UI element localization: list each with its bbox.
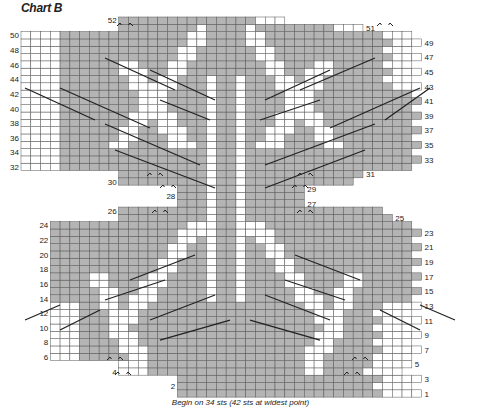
chart-cell: [402, 32, 412, 39]
chart-cell: [41, 127, 51, 134]
chart-cell: [236, 258, 246, 265]
chart-cell: [334, 178, 344, 185]
row-number: 37: [425, 126, 434, 135]
chart-cell: [392, 339, 402, 346]
chart-cell: [246, 75, 256, 82]
chart-cell: [168, 287, 178, 294]
chart-cell: [246, 339, 256, 346]
chart-cell: [363, 222, 373, 229]
chart-cell: [402, 295, 412, 302]
chart-cell: [226, 192, 236, 199]
chart-cell: [21, 32, 31, 39]
chart-cell: [109, 163, 119, 170]
chart-cell: [275, 200, 285, 207]
chart-cell: [197, 149, 207, 156]
chart-cell: [236, 339, 246, 346]
chart-cell: [255, 251, 265, 258]
chart-cell: [295, 353, 305, 360]
chart-cell: [177, 178, 187, 185]
row-number: 42: [10, 90, 19, 99]
chart-cell: [236, 200, 246, 207]
chart-cell: [99, 229, 109, 236]
chart-cell: [187, 134, 197, 141]
chart-cell: [343, 244, 353, 251]
chart-cell: [207, 68, 217, 75]
chart-cell: [187, 273, 197, 280]
chart-cell: [295, 258, 305, 265]
chart-cell: [89, 353, 99, 360]
chart-cell: [343, 383, 353, 390]
chart-cell: [343, 214, 353, 221]
chart-cell: [304, 222, 314, 229]
chart-cell: [353, 207, 363, 214]
chart-cell: [295, 68, 305, 75]
chart-cell: [109, 149, 119, 156]
chart-cell: [343, 375, 353, 382]
chart-cell: [353, 83, 363, 90]
chart-cell: [373, 346, 383, 353]
chart-cell: [324, 24, 334, 31]
chart-cell: [343, 346, 353, 353]
chart-cell: [99, 339, 109, 346]
chart-cell: [343, 339, 353, 346]
chart-cell: [187, 163, 197, 170]
chart-cell: [177, 229, 187, 236]
chart-cell: [99, 90, 109, 97]
chart-cell: [392, 119, 402, 126]
chart-cell: [295, 368, 305, 375]
chart-cell: [265, 192, 275, 199]
chart-cell: [392, 287, 402, 294]
chart-cell: [197, 244, 207, 251]
chart-cell: [382, 68, 392, 75]
row-number: 46: [10, 61, 19, 70]
chart-cell: [119, 236, 129, 243]
knitting-chart-grid: 5048464442403836343230282624222018161412…: [0, 0, 481, 412]
chart-cell: [324, 324, 334, 331]
chart-cell: [80, 46, 90, 53]
chart-cell: [314, 273, 324, 280]
chart-cell: [295, 200, 305, 207]
chart-caption: Begin on 34 sts (42 sts at widest point): [0, 398, 481, 407]
stitch-symbol: [377, 23, 382, 26]
chart-cell: [392, 54, 402, 61]
chart-cell: [177, 287, 187, 294]
chart-cell: [392, 309, 402, 316]
chart-cell: [128, 24, 138, 31]
chart-cell: [314, 361, 324, 368]
chart-cell: [216, 163, 226, 170]
chart-cell: [343, 258, 353, 265]
chart-cell: [255, 39, 265, 46]
chart-cell: [246, 309, 256, 316]
chart-cell: [216, 39, 226, 46]
chart-cell: [246, 244, 256, 251]
chart-cell: [334, 236, 344, 243]
chart-cell: [128, 244, 138, 251]
chart-cell: [324, 32, 334, 39]
chart-cell: [60, 266, 70, 273]
chart-cell: [255, 149, 265, 156]
chart-cell: [187, 236, 197, 243]
chart-cell: [295, 75, 305, 82]
chart-cell: [295, 192, 305, 199]
chart-cell: [21, 97, 31, 104]
chart-cell: [255, 353, 265, 360]
chart-cell: [158, 353, 168, 360]
chart-cell: [207, 222, 217, 229]
chart-cell: [138, 236, 148, 243]
chart-cell: [255, 229, 265, 236]
chart-cell: [138, 24, 148, 31]
chart-cell: [255, 287, 265, 294]
chart-cell: [373, 266, 383, 273]
chart-cell: [402, 390, 412, 397]
chart-cell: [265, 258, 275, 265]
chart-cell: [21, 54, 31, 61]
chart-cell: [187, 119, 197, 126]
chart-cell: [363, 280, 373, 287]
chart-cell: [216, 339, 226, 346]
chart-cell: [109, 46, 119, 53]
chart-cell: [50, 287, 60, 294]
chart-cell: [207, 258, 217, 265]
chart-cell: [60, 222, 70, 229]
chart-cell: [177, 192, 187, 199]
chart-cell: [226, 83, 236, 90]
